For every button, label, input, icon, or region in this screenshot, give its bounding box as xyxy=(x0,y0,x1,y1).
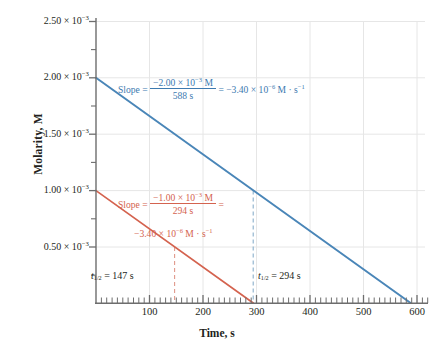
red-slope-equals: = xyxy=(218,199,223,210)
x-tick-label-400: 400 xyxy=(280,306,340,317)
red-slope-annotation: Slope = −1.00 × 10−3 M 294 s = xyxy=(118,192,224,216)
x-axis-label: Time, s xyxy=(0,327,434,339)
y-minor-ticks xyxy=(91,50,96,276)
y-major-ticks xyxy=(89,22,96,248)
y-tick-label-1.50e-3: 1.50 × 10−3 xyxy=(3,129,89,139)
x-tick-label-100: 100 xyxy=(120,306,180,317)
x-tick-label-200: 200 xyxy=(173,306,233,317)
red-slope-label: Slope = xyxy=(118,199,148,210)
chart-canvas xyxy=(0,0,434,347)
y-tick-label-2.00e-3: 2.00 × 10−3 xyxy=(3,72,89,82)
blue-slope-label: Slope = xyxy=(118,84,148,95)
blue-slope-equals: = xyxy=(218,84,223,95)
red-slope-denominator: 294 s xyxy=(150,203,216,216)
blue-slope-fraction: −2.00 × 10−3 M 588 s xyxy=(150,77,216,101)
red-slope-fraction: −1.00 × 10−3 M 294 s xyxy=(150,192,216,216)
chart-figure: Molarity, M 2.50 × 10−3 2.00 × 10−3 1.50… xyxy=(0,0,434,347)
x-gridlines xyxy=(150,22,418,304)
red-slope-result: −3.40 × 10−6 M · s−1 xyxy=(134,228,213,239)
y-tick-label-2.50e-3: 2.50 × 10−3 xyxy=(3,16,89,26)
x-minor-ticks xyxy=(101,298,427,304)
blue-slope-numerator: −2.00 × 10−3 M xyxy=(150,77,216,88)
blue-slope-result: −3.40 × 10−6 M · s−1 xyxy=(226,84,305,95)
x-tick-label-300: 300 xyxy=(227,306,287,317)
red-slope-numerator: −1.00 × 10−3 M xyxy=(150,192,216,203)
blue-slope-denominator: 588 s xyxy=(150,88,216,101)
blue-slope-annotation: Slope = −2.00 × 10−3 M 588 s = −3.40 × 1… xyxy=(118,77,305,101)
x-tick-label-600: 600 xyxy=(387,306,434,317)
x-tick-label-500: 500 xyxy=(334,306,394,317)
y-tick-label-0.50e-3: 0.50 × 10−3 xyxy=(3,242,89,252)
half-life-294-label: t1/2 = 294 s xyxy=(258,270,301,281)
half-life-147-label: t1/2 = 147 s xyxy=(91,270,134,281)
y-tick-label-1.00e-3: 1.00 × 10−3 xyxy=(3,185,89,195)
